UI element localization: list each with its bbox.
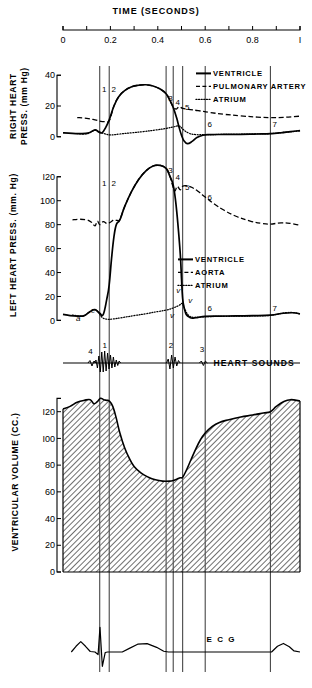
- left-heart-axis-tick-label: 40: [45, 268, 55, 278]
- right-event-label-4: 4: [175, 98, 180, 107]
- right-heart-axis-tick-label: 40: [45, 70, 55, 80]
- right-event-label-3: 3: [168, 94, 173, 103]
- heart-sound-number-3: 3: [200, 345, 205, 354]
- curve-right-ventricle: [63, 85, 300, 144]
- volume-axis-tick-label: 0: [50, 567, 55, 577]
- time-axis-tick-label: I: [299, 35, 302, 45]
- left-event-label-6: 6: [207, 193, 212, 202]
- left-heart-axis-tick-label: 60: [45, 244, 55, 254]
- diagram-canvas: TIME (SECONDS)00.20.40.60.8I02040RIGHT H…: [0, 0, 312, 688]
- right-heart-axis-tick-label: 0: [50, 132, 55, 142]
- left-heart-axis-tick-label: I20: [42, 172, 55, 182]
- ecg-waveform: [71, 627, 300, 666]
- wave-label-v: v: [170, 311, 175, 320]
- volume-axis-tick-label: 40: [45, 514, 55, 524]
- wave-label-v-notch: v: [176, 286, 181, 295]
- time-axis-tick-label: 0: [60, 35, 65, 45]
- time-axis-title: TIME (SECONDS): [112, 6, 199, 16]
- volume-axis-tick-label: 20: [45, 540, 55, 550]
- left-heart-legend-item-ventricle: VENTRICLE: [195, 255, 245, 264]
- heart-sound-number-2: 2: [169, 341, 174, 350]
- right-heart-ylabel: RIGHT HEART: [8, 73, 18, 139]
- right-event-label-2: 2: [111, 85, 116, 94]
- time-axis-tick-label: 0.6: [199, 35, 212, 45]
- heart-sound-s1-waveform: [95, 351, 121, 372]
- curve-aorta: [72, 165, 300, 226]
- right-heart-legend-item-pulmonary-artery: PULMONARY ARTERY: [213, 82, 306, 91]
- left-heart-axis-tick-label: 0: [50, 316, 55, 326]
- left-heart-legend-item-aorta: AORTA: [195, 268, 225, 277]
- left-heart-axis-tick-label: 80: [45, 220, 55, 230]
- left-event-label-1: 1: [102, 179, 107, 188]
- right-event-label-5: 5: [185, 103, 190, 112]
- left-event-label-7: 7: [273, 304, 278, 313]
- wave-label-c: c: [91, 306, 95, 315]
- volume-area-fill: [63, 398, 300, 572]
- time-axis-tick-label: 0.2: [104, 35, 117, 45]
- right-event-label-1: 1: [102, 85, 107, 94]
- heart-sound-number-1: 1: [102, 341, 107, 350]
- heart-sound-number-4: 4: [88, 347, 93, 356]
- time-axis-tick-label: 0.8: [246, 35, 259, 45]
- left-heart-legend-item-atrium: ATRIUM: [195, 281, 228, 290]
- left-heart-ylabel: LEFT HEART PRESS. (mm. Hg): [8, 173, 18, 317]
- volume-axis-tick-label: I00: [42, 434, 55, 444]
- heart-sounds-label-text: HEART SOUNDS: [213, 358, 294, 368]
- left-event-label-4: 4: [175, 173, 180, 182]
- volume-axis-tick-label: I20: [42, 407, 55, 417]
- right-heart-axis-tick-label: 20: [45, 101, 55, 111]
- right-event-label-6: 6: [207, 120, 212, 129]
- right-event-label-7: 7: [273, 120, 278, 129]
- left-event-label-2: 2: [111, 179, 116, 188]
- left-event-label-5: 5: [185, 183, 190, 192]
- wave-label-a: a: [76, 314, 81, 323]
- right-heart-legend-item-atrium: ATRIUM: [213, 95, 246, 104]
- curve-left-atrium: [72, 303, 300, 319]
- volume-axis-tick-label: 80: [45, 460, 55, 470]
- ecg-label-text: E C G: [206, 635, 236, 644]
- wiggers-diagram: TIME (SECONDS)00.20.40.60.8I02040RIGHT H…: [0, 0, 312, 688]
- left-heart-axis-tick-label: 20: [45, 292, 55, 302]
- left-event-label-3: 3: [168, 166, 173, 175]
- right-heart-legend-item-ventricle: VENTRICLE: [213, 69, 263, 78]
- left-heart-axis-tick-label: 100: [40, 196, 55, 206]
- left-event-label-6-lower: 6: [207, 304, 212, 313]
- right-heart-ylabel-units: PRESS. (mm Hg): [19, 67, 29, 145]
- volume-axis-line: [57, 398, 61, 572]
- volume-ylabel: VENTRICULAR VOLUME (CC.): [10, 412, 20, 551]
- volume-axis-tick-label: 60: [45, 487, 55, 497]
- time-axis-tick-label: 0.4: [152, 35, 165, 45]
- wave-label-v-peak: v: [188, 296, 193, 305]
- curve-left-ventricle: [63, 165, 300, 318]
